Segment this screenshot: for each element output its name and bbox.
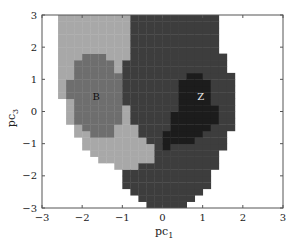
x-axis-label: pc1 bbox=[155, 225, 173, 240]
x-tick-label: −3 bbox=[35, 212, 50, 223]
y-tick-label: −3 bbox=[22, 203, 37, 214]
x-tick-label: 2 bbox=[240, 212, 246, 223]
grid-cells bbox=[58, 15, 235, 208]
annotation-z: Z bbox=[197, 91, 204, 102]
y-tick-label: 3 bbox=[31, 10, 37, 21]
x-tick-label: 3 bbox=[280, 212, 286, 223]
x-tick-label: 0 bbox=[159, 212, 165, 223]
y-tick-label: −2 bbox=[22, 170, 37, 181]
y-tick-label: 1 bbox=[31, 74, 37, 85]
annotation-b: B bbox=[93, 91, 100, 102]
x-tick-label: −2 bbox=[75, 212, 90, 223]
y-tick-label: −1 bbox=[22, 138, 37, 149]
y-axis-label: pc3 bbox=[5, 109, 20, 127]
y-tick-label: 2 bbox=[31, 42, 37, 53]
y-tick-label: 0 bbox=[31, 106, 37, 117]
x-tick-label: −1 bbox=[115, 212, 130, 223]
x-tick-label: 1 bbox=[199, 212, 205, 223]
scatter-class-map: −3−2−10123 −3−2−10123 B Z pc1 pc3 bbox=[0, 0, 299, 246]
